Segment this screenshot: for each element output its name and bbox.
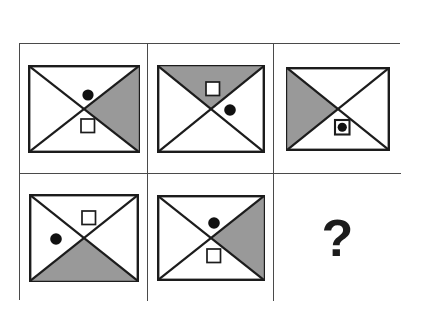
filled-circle-marker: [224, 104, 236, 116]
matrix-cell-3[interactable]: [273, 44, 401, 173]
matrix-grid: ?: [19, 43, 400, 300]
open-square-marker: [206, 82, 220, 96]
filled-circle-marker: [50, 233, 62, 245]
figure-cell-3: [286, 67, 390, 151]
figure-cell-2: [157, 65, 265, 153]
filled-circle-marker: [208, 217, 220, 229]
puzzle-root: Matrix Reasoning Puzzle: [0, 0, 421, 328]
figure-cell-4: [29, 194, 139, 282]
open-square-marker: [82, 211, 96, 225]
question-mark: ?: [322, 212, 354, 264]
filled-circle-inner: [337, 122, 346, 131]
figure-cell-1: [28, 65, 140, 153]
figure-cell-5: [157, 195, 265, 281]
open-square-marker: [81, 119, 95, 133]
page-title: Matrix Reasoning Puzzle: [0, 0, 1, 1]
matrix-cell-4[interactable]: [20, 173, 147, 301]
open-square-marker: [207, 249, 221, 263]
matrix-cell-5[interactable]: [147, 173, 273, 301]
matrix-cell-2[interactable]: [147, 44, 273, 173]
filled-circle-marker: [82, 89, 93, 100]
circle-in-square-marker: [335, 120, 350, 135]
matrix-cell-6-answer-slot[interactable]: ?: [273, 173, 401, 301]
matrix-cell-1[interactable]: [20, 44, 147, 173]
